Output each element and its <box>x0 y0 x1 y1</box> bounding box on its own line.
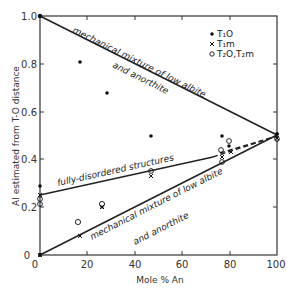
y-tick-labels: 0 0.2 0.4 0.6 0.8 1.0 <box>21 11 37 261</box>
annotation-upper-mixture-1: mechanical mixture of low albite <box>71 25 208 100</box>
y-tick-0.6: 0.6 <box>21 107 37 118</box>
lower-mixture-line <box>40 135 277 255</box>
y-tick-0.8: 0.8 <box>21 59 37 70</box>
x-tick-100: 100 <box>266 259 285 270</box>
x-tick-60: 60 <box>176 259 189 270</box>
legend-circle-icon <box>210 52 214 56</box>
annotation-disordered: fully-disordered structures <box>56 152 175 188</box>
x-tick-80: 80 <box>224 259 237 270</box>
x-tick-20: 20 <box>81 259 94 270</box>
scatter-chart: 0 0.2 0.4 0.6 0.8 1.0 0 20 40 60 80 100 … <box>0 0 297 293</box>
x-axis-title: Mole % An <box>136 275 183 285</box>
y-axis-title: Al estimated from T-O distance <box>11 66 21 206</box>
legend-t1m: T₁m <box>216 39 235 49</box>
legend-cross-icon <box>210 42 214 46</box>
x-tick-labels: 0 20 40 60 80 100 <box>32 259 286 270</box>
legend-dot-icon <box>210 32 214 36</box>
y-tick-0.4: 0.4 <box>21 154 37 165</box>
y-tick-0: 0 <box>24 250 30 261</box>
x-tick-40: 40 <box>129 259 142 270</box>
x-tick-0: 0 <box>32 259 38 270</box>
legend-t2: T₂O,T₂m <box>216 49 254 59</box>
legend: T₁O T₁m T₂O,T₂m <box>210 29 254 59</box>
y-tick-0.2: 0.2 <box>21 202 37 213</box>
y-tick-1.0: 1.0 <box>21 11 37 22</box>
legend-t1o: T₁O <box>216 29 233 39</box>
